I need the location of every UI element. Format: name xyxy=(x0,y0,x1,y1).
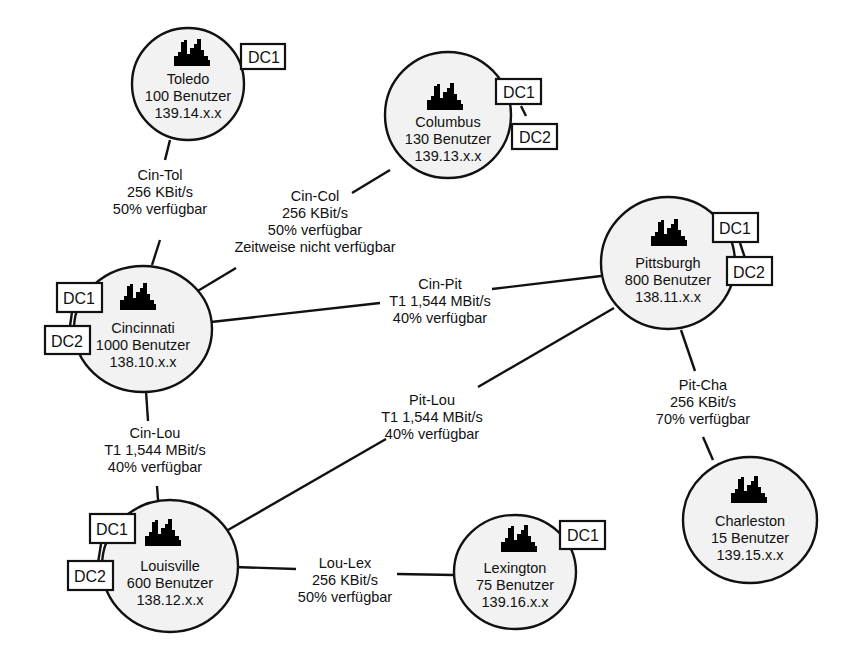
site-name: Pittsburgh xyxy=(635,255,700,271)
site-subnet: 139.13.x.x xyxy=(415,148,483,164)
link-line xyxy=(397,574,454,575)
site-name: Louisville xyxy=(140,558,200,574)
dc-label: DC1 xyxy=(63,290,95,307)
site-users: 130 Benutzer xyxy=(405,131,491,147)
link-label-bandwidth: 256 KBit/s xyxy=(312,572,378,588)
node-louisville: Louisville 600 Benutzer 138.12.x.x DC1 D… xyxy=(68,500,238,632)
link-line xyxy=(703,437,713,460)
site-name: Columbus xyxy=(415,114,480,130)
site-users: 600 Benutzer xyxy=(127,575,213,591)
link-cin-pit: Cin-Pit T1 1,544 MBit/s 40% verfügbar xyxy=(211,276,601,326)
link-cin-tol: Cin-Tol 256 KBit/s 50% verfügbar xyxy=(113,140,207,265)
link-line xyxy=(478,308,614,387)
link-line xyxy=(152,240,160,265)
dc1-box: DC1 xyxy=(241,44,285,69)
site-name: Cincinnati xyxy=(111,320,175,336)
link-label-availability: 50% verfügbar xyxy=(113,201,207,217)
dc-label: DC2 xyxy=(74,568,106,585)
dc-label: DC2 xyxy=(733,264,765,281)
dc1-box: DC1 xyxy=(90,514,135,543)
dc1-box: DC1 xyxy=(496,79,541,104)
link-label-name: Cin-Lou xyxy=(130,425,181,441)
site-subnet: 138.11.x.x xyxy=(635,289,702,305)
site-users: 800 Benutzer xyxy=(625,272,711,288)
dc-label: DC2 xyxy=(51,333,83,350)
dc-label: DC1 xyxy=(719,220,751,237)
link-label-bandwidth: 256 KBit/s xyxy=(127,184,193,200)
site-name: Charleston xyxy=(715,513,785,529)
link-label-bandwidth: 256 KBit/s xyxy=(670,394,736,410)
link-line xyxy=(352,170,390,193)
dc-label: DC1 xyxy=(503,84,535,101)
link-label-bandwidth: 256 KBit/s xyxy=(282,205,348,221)
node-pittsburgh: Pittsburgh 800 Benutzer 138.11.x.x DC1 D… xyxy=(601,197,772,329)
link-label-bandwidth: T1 1,544 MBit/s xyxy=(104,442,206,458)
link-label-note: Zeitweise nicht verfügbar xyxy=(234,239,395,255)
link-line xyxy=(228,439,386,530)
dc-label: DC1 xyxy=(248,49,280,66)
link-line xyxy=(234,567,296,569)
dc-label: DC1 xyxy=(96,521,128,538)
site-users: 75 Benutzer xyxy=(476,577,554,593)
link-line xyxy=(196,268,236,292)
dc1-box: DC1 xyxy=(713,213,758,242)
dc1-box: DC1 xyxy=(57,283,102,312)
link-pit-cha: Pit-Cha 256 KBit/s 70% verfügbar xyxy=(656,330,750,460)
node-charleston: Charleston 15 Benutzer 139.15.x.x xyxy=(683,457,817,583)
node-columbus: Columbus 130 Benutzer 139.13.x.x DC1 DC2 xyxy=(385,52,557,178)
dc-label: DC2 xyxy=(519,129,551,146)
link-label-availability: 70% verfügbar xyxy=(656,411,750,427)
link-label-availability: 40% verfügbar xyxy=(385,426,479,442)
link-label-bandwidth: T1 1,544 MBit/s xyxy=(389,293,491,309)
link-lou-lex: Lou-Lex 256 KBit/s 50% verfügbar xyxy=(234,555,454,605)
link-label-name: Lou-Lex xyxy=(319,555,372,571)
link-cin-col: Cin-Col 256 KBit/s 50% verfügbar Zeitwei… xyxy=(196,170,396,292)
dc2-box: DC2 xyxy=(512,124,557,149)
link-label-name: Pit-Lou xyxy=(409,392,455,408)
site-name: Lexington xyxy=(484,560,547,576)
link-line xyxy=(681,330,695,371)
link-label-name: Cin-Pit xyxy=(418,276,462,292)
link-line xyxy=(157,486,158,500)
site-users: 15 Benutzer xyxy=(711,530,789,546)
link-cin-lou: Cin-Lou T1 1,544 MBit/s 40% verfügbar xyxy=(104,391,206,500)
site-subnet: 139.16.x.x xyxy=(482,594,550,610)
link-label-name: Pit-Cha xyxy=(679,377,728,393)
link-pit-lou: Pit-Lou T1 1,544 MBit/s 40% verfügbar xyxy=(228,308,614,530)
link-label-availability: 50% verfügbar xyxy=(268,222,362,238)
dc1-box: DC1 xyxy=(560,521,605,549)
link-line xyxy=(492,276,601,289)
link-line xyxy=(165,140,170,160)
link-label-availability: 50% verfügbar xyxy=(298,589,392,605)
dc2-box: DC2 xyxy=(68,561,113,590)
link-line xyxy=(146,391,148,421)
dc2-box: DC2 xyxy=(45,326,90,354)
site-subnet: 138.12.x.x xyxy=(137,592,205,608)
node-lexington: Lexington 75 Benutzer 139.16.x.x DC1 xyxy=(454,515,605,629)
site-name: Toledo xyxy=(167,71,210,87)
dc-label: DC1 xyxy=(567,527,599,544)
node-toledo: Toledo 100 Benutzer 139.14.x.x DC1 xyxy=(132,28,285,140)
link-label-availability: 40% verfügbar xyxy=(393,310,487,326)
link-label-name: Cin-Tol xyxy=(137,167,182,183)
dc2-box: DC2 xyxy=(727,257,772,285)
link-label-name: Cin-Col xyxy=(291,188,339,204)
link-label-availability: 40% verfügbar xyxy=(108,459,202,475)
site-users: 100 Benutzer xyxy=(145,88,231,104)
site-users: 1000 Benutzer xyxy=(96,337,190,353)
node-cincinnati: Cincinnati 1000 Benutzer 138.10.x.x DC1 … xyxy=(45,266,212,392)
site-subnet: 139.14.x.x xyxy=(155,105,223,121)
network-topology-diagram: Cin-Tol 256 KBit/s 50% verfügbar Cin-Col… xyxy=(0,0,856,657)
site-subnet: 138.10.x.x xyxy=(110,354,178,370)
link-label-bandwidth: T1 1,544 MBit/s xyxy=(381,409,483,425)
link-line xyxy=(211,303,380,322)
site-subnet: 139.15.x.x xyxy=(717,547,785,563)
